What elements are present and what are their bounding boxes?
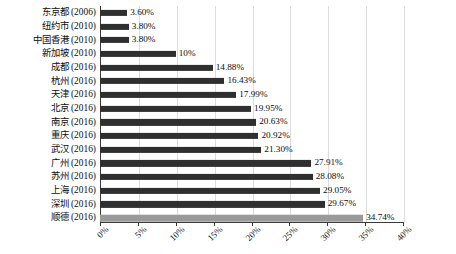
x-tick-label: 40%: [395, 225, 413, 243]
category-label: 顺德 (2016): [0, 213, 100, 222]
bar-rows-container: 东京都 (2006)3.60%纽约市 (2010)3.80%中国香港 (2010…: [0, 6, 456, 222]
bar-value-label: 27.91%: [311, 159, 342, 168]
bar-cell: 14.88%: [100, 61, 456, 75]
bar: [100, 92, 236, 98]
bar-cell: 20.92%: [100, 129, 456, 143]
x-tick-label: 15%: [206, 225, 224, 243]
category-label: 南京 (2016): [0, 118, 100, 127]
bar-cell: 10%: [100, 47, 456, 61]
bar-value-label: 28.08%: [313, 172, 344, 181]
bar-cell: 3.80%: [100, 20, 456, 34]
bar-value-label: 29.67%: [325, 200, 356, 209]
category-label: 北京 (2016): [0, 104, 100, 113]
category-label: 中国香港 (2010): [0, 36, 100, 45]
bar-value-label: 20.92%: [258, 131, 289, 140]
bar-cell: 3.80%: [100, 33, 456, 47]
bar-value-label: 3.80%: [129, 22, 156, 31]
bar-value-label: 10%: [176, 49, 196, 58]
bar-row: 重庆 (2016)20.92%: [0, 129, 456, 143]
bar: [100, 23, 129, 29]
bar-cell: 21.30%: [100, 143, 456, 157]
bar: [100, 160, 311, 166]
bar: [100, 215, 363, 222]
bar: [100, 188, 320, 194]
bar-value-label: 3.60%: [127, 8, 154, 17]
bar-value-label: 14.88%: [213, 63, 244, 72]
bar-row: 广州 (2016)27.91%: [0, 157, 456, 171]
bar-cell: 28.08%: [100, 170, 456, 184]
x-tick-label: 25%: [282, 225, 300, 243]
bar-row: 武汉 (2016)21.30%: [0, 143, 456, 157]
bar-row: 苏州 (2016)28.08%: [0, 170, 456, 184]
bar-cell: 29.67%: [100, 198, 456, 212]
bar-row: 北京 (2016)19.95%: [0, 102, 456, 116]
category-label: 广州 (2016): [0, 159, 100, 168]
category-label: 新加坡 (2010): [0, 49, 100, 58]
category-label: 杭州 (2016): [0, 77, 100, 86]
category-label: 东京都 (2006): [0, 8, 100, 17]
category-label: 武汉 (2016): [0, 145, 100, 154]
bar-value-label: 19.95%: [251, 104, 282, 113]
bar-cell: 29.05%: [100, 184, 456, 198]
category-label: 天津 (2016): [0, 90, 100, 99]
category-label: 重庆 (2016): [0, 131, 100, 140]
x-tick-label: 35%: [357, 225, 375, 243]
bar: [100, 78, 224, 84]
bar: [100, 65, 213, 71]
x-tick-label: 10%: [168, 225, 186, 243]
category-label: 成都 (2016): [0, 63, 100, 72]
x-tick-label: 0%: [96, 225, 111, 240]
bar-row: 新加坡 (2010)10%: [0, 47, 456, 61]
category-label: 纽约市 (2010): [0, 22, 100, 31]
bar-row: 南京 (2016)20.63%: [0, 116, 456, 130]
x-tick-label: 5%: [133, 225, 148, 240]
bar: [100, 201, 325, 207]
bar-value-label: 3.80%: [129, 36, 156, 45]
bar-cell: 3.60%: [100, 6, 456, 20]
bar-value-label: 16.43%: [224, 77, 255, 86]
bar: [100, 37, 129, 43]
category-label: 上海 (2016): [0, 186, 100, 195]
bar-value-label: 17.99%: [236, 90, 267, 99]
bar-cell: 27.91%: [100, 157, 456, 171]
bar: [100, 174, 313, 180]
bar-cell: 20.63%: [100, 116, 456, 130]
bar-row: 深圳 (2016)29.67%: [0, 198, 456, 212]
category-label: 深圳 (2016): [0, 200, 100, 209]
bar-row: 中国香港 (2010)3.80%: [0, 33, 456, 47]
bar-cell: 17.99%: [100, 88, 456, 102]
bar-value-label: 21.30%: [261, 145, 292, 154]
bar-row: 东京都 (2006)3.60%: [0, 6, 456, 20]
bar: [100, 133, 258, 139]
bar-cell: 16.43%: [100, 74, 456, 88]
category-label: 苏州 (2016): [0, 172, 100, 181]
bar: [100, 51, 176, 57]
bar: [100, 106, 251, 112]
bar-row: 杭州 (2016)16.43%: [0, 74, 456, 88]
bar-row: 上海 (2016)29.05%: [0, 184, 456, 198]
bar: [100, 119, 256, 125]
bar: [100, 10, 127, 16]
bar-cell: 19.95%: [100, 102, 456, 116]
x-tick-label: 30%: [320, 225, 338, 243]
bar-row: 天津 (2016)17.99%: [0, 88, 456, 102]
bar: [100, 147, 261, 153]
bar-value-label: 29.05%: [320, 186, 351, 195]
x-tick-label: 20%: [244, 225, 262, 243]
x-axis-tick-labels: 0%5%10%15%20%25%30%35%40%: [0, 223, 456, 254]
bar-value-label: 20.63%: [256, 118, 287, 127]
bar-row: 成都 (2016)14.88%: [0, 61, 456, 75]
bar-row: 纽约市 (2010)3.80%: [0, 20, 456, 34]
bar-chart: 东京都 (2006)3.60%纽约市 (2010)3.80%中国香港 (2010…: [0, 0, 456, 254]
